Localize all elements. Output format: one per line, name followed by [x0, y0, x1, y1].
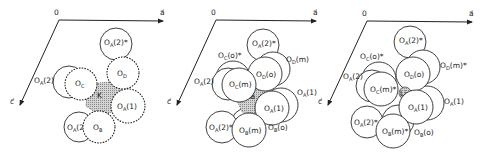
panel-k: 0 a⃗ c⃗ OA(2)* OA(2) OA(2) K OD OC OA(1): [10, 8, 165, 143]
axis-a: [59, 20, 163, 21]
atom-label: OB(m)*: [382, 127, 409, 137]
atom-label: OA(2): [194, 77, 214, 87]
atom-label: OB(o): [268, 123, 288, 133]
atom-label: OB(m): [239, 126, 262, 136]
atom-label: OC(o)*: [218, 51, 242, 61]
panel-li: 0 a⃗ c⃗ OA(2)* OD(m)* OC(o)* OA(2) OA(1)…: [318, 9, 474, 148]
atom-label: OA(2)*: [354, 118, 378, 128]
atom-label: OD(o): [404, 70, 424, 80]
atom-label: OA(1): [264, 104, 284, 114]
axis-a-label: a⃗: [160, 8, 165, 17]
atom-label: OA(1): [444, 97, 464, 107]
atom-label: OD(m)*: [440, 61, 467, 71]
axis-c: [177, 20, 216, 105]
atom-label: OA(2): [343, 72, 363, 82]
axis-c-label: c⃗: [10, 97, 14, 106]
atom-label: OA(2)*: [104, 38, 128, 48]
axis-c: [20, 20, 59, 105]
origin-label: 0: [362, 9, 367, 18]
axis-a: [216, 20, 316, 21]
atom-label: OC(m)*: [370, 85, 397, 95]
axis-c-label: c⃗: [167, 97, 171, 106]
axis-a: [367, 21, 472, 22]
atom-label: OD(m): [286, 55, 309, 65]
atom-label: OA(2)*: [399, 36, 423, 46]
atom-label: OA(1): [408, 103, 428, 113]
atom-label: OA(1): [297, 88, 317, 98]
axis-a-label: a⃗: [469, 9, 474, 18]
atom-label: OC(o)*: [360, 52, 384, 62]
atom-label: OA(2): [34, 76, 54, 86]
atom-label: OB(o): [414, 128, 434, 138]
atom-label: OA(2)*: [252, 39, 276, 49]
axis-c-label: c⃗: [318, 97, 322, 106]
origin-label: 0: [211, 8, 216, 17]
atom-label: OA(1): [117, 102, 137, 112]
atom-label: OD(o): [256, 70, 276, 80]
panel-na: 0 a⃗ c⃗ OA(2)* OD(m) OC(o)* OA(2) OA(1) …: [167, 8, 318, 147]
origin-label: 0: [54, 8, 59, 17]
atom-label: OA(2)*: [209, 123, 233, 133]
axis-a-label: a⃗: [313, 8, 318, 17]
atom-label: OC(m): [229, 80, 252, 90]
coordination-figure: 0 a⃗ c⃗ OA(2)* OA(2) OA(2) K OD OC OA(1): [0, 0, 481, 158]
